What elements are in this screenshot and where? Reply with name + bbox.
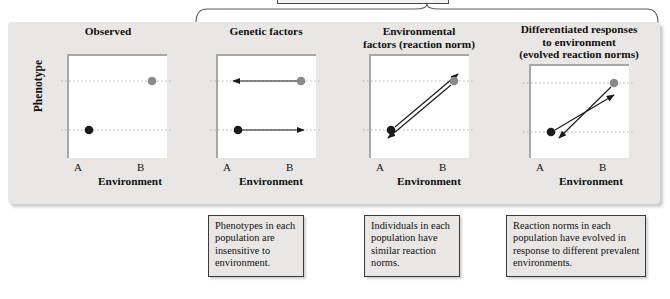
panel-differentiated-responses-title: Differentiated responses to environment …: [498, 23, 660, 61]
grouping-brace-icon: [193, 4, 661, 24]
panel-environmental-factors: Environmental factors (reaction norm) A …: [340, 22, 498, 204]
diagram-content: Phenotype Observed A B Environment Genet…: [8, 22, 660, 204]
panel-differentiated-responses-tick-b: B: [599, 161, 606, 173]
panel-differentiated-responses-title-line-3: (evolved reaction norms): [498, 48, 660, 61]
panel-environmental-factors-title: Environmental factors (reaction norm): [340, 25, 498, 50]
panel-differentiated-responses-title-line-2: to environment: [498, 36, 660, 49]
panel-observed-tick-a: A: [74, 161, 82, 173]
panel-differentiated-responses: Differentiated responses to environment …: [498, 22, 660, 204]
panel-environmental-factors-title-line-1: Environmental: [340, 25, 498, 38]
caption-genetic-factors: Phenotypes in each population are insens…: [208, 215, 304, 277]
panel-observed: Observed A B Environment: [26, 22, 190, 204]
panel-genetic-factors-x-label: Environment: [190, 175, 347, 187]
caption-differentiated-responses: Reaction norms in each population have e…: [506, 215, 646, 277]
panel-environmental-factors-x-label: Environment: [340, 175, 508, 187]
panel-differentiated-responses-graphic: [521, 64, 637, 158]
panel-differentiated-responses-x-label: Environment: [498, 175, 670, 187]
panel-observed-tick-b: B: [137, 161, 144, 173]
panel-environmental-factors-tick-b: B: [439, 161, 446, 173]
panel-genetic-factors-title: Genetic factors: [190, 25, 342, 38]
panel-genetic-factors-tick-a: A: [223, 161, 231, 173]
panel-observed-x-label: Environment: [26, 175, 212, 187]
panel-differentiated-responses-title-line-1: Differentiated responses: [498, 23, 660, 36]
panel-observed-graphic: [59, 54, 175, 158]
panel-observed-title: Observed: [26, 25, 190, 38]
panel-genetic-factors: Genetic factors A B Environment: [190, 22, 342, 204]
panel-environmental-factors-graphic: [361, 54, 477, 158]
panel-environmental-factors-tick-a: A: [376, 161, 384, 173]
panel-genetic-factors-tick-b: B: [286, 161, 293, 173]
panel-differentiated-responses-tick-a: A: [536, 161, 544, 173]
panel-environmental-factors-title-line-2: factors (reaction norm): [340, 38, 498, 51]
caption-environmental-factors: Individuals in each population have simi…: [364, 215, 460, 277]
panel-genetic-factors-graphic: [208, 54, 324, 158]
